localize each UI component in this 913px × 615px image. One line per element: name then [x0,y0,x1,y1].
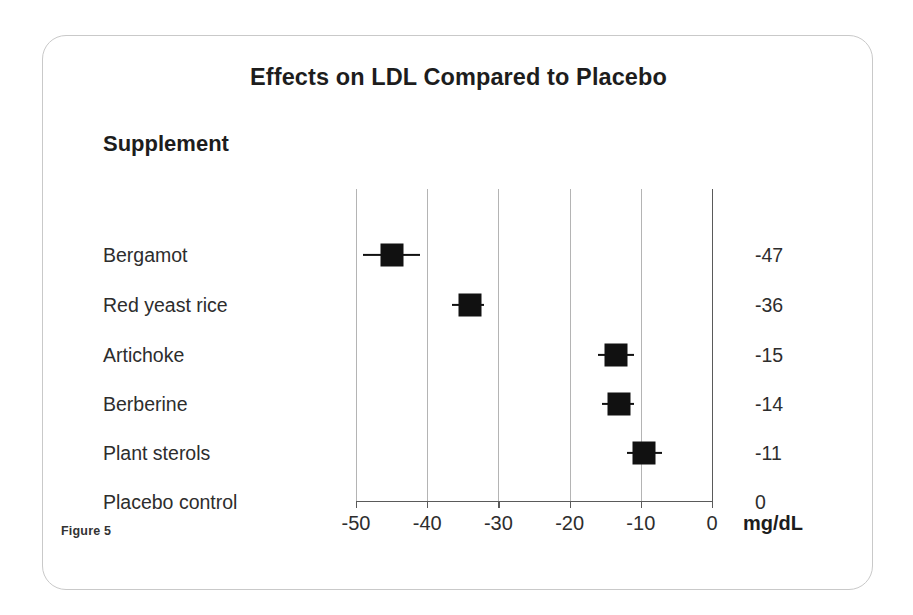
row-value-placebo-control: 0 [755,491,815,514]
x-axis-tick-0 [712,501,713,508]
row-value-plant-sterols: -11 [755,442,815,465]
x-axis-tick--20 [570,501,571,508]
data-marker-berberine [608,393,631,416]
x-axis-unit-label: mg/dL [743,512,803,535]
figure-caption: Figure 5 [61,524,111,538]
row-value-bergamot: -47 [755,244,815,267]
data-marker-red-yeast-rice [458,294,481,317]
gridline--20 [570,189,571,501]
row-value-berberine: -14 [755,393,815,416]
figure-card: Effects on LDL Compared to Placebo Suppl… [42,35,873,590]
x-axis-tick--30 [498,501,499,508]
x-axis-tick-label-0: 0 [677,512,747,535]
x-axis-tick--10 [641,501,642,508]
x-axis-tick-label--40: -40 [392,512,462,535]
row-label-plant-sterols: Plant sterols [103,442,210,465]
row-label-bergamot: Bergamot [103,244,188,267]
plot-area: mg/dL -50-40-30-20-100Bergamot-47Red yea… [43,36,874,591]
x-axis-tick-label--30: -30 [463,512,533,535]
data-marker-plant-sterols [633,442,656,465]
x-axis-tick-label--20: -20 [535,512,605,535]
x-axis-line [356,501,712,502]
x-axis-tick-label--10: -10 [606,512,676,535]
gridline-0 [712,189,713,501]
data-marker-bergamot [380,244,403,267]
gridline--30 [498,189,499,501]
x-axis-tick-label--50: -50 [321,512,391,535]
data-marker-artichoke [604,344,627,367]
x-axis-tick--40 [427,501,428,508]
row-value-red-yeast-rice: -36 [755,294,815,317]
row-label-placebo-control: Placebo control [103,491,237,514]
row-value-artichoke: -15 [755,344,815,367]
row-label-berberine: Berberine [103,393,188,416]
gridline--40 [427,189,428,501]
gridline--50 [356,189,357,501]
row-label-red-yeast-rice: Red yeast rice [103,294,228,317]
x-axis-tick--50 [356,501,357,508]
row-label-artichoke: Artichoke [103,344,184,367]
